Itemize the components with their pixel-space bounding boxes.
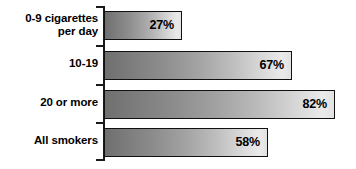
bar-value-label-0: 27%	[150, 19, 181, 32]
bar-2: 82%	[104, 90, 335, 119]
bar-chart: 0-9 cigarettes per day 27% 10-19 67% 20 …	[0, 0, 356, 169]
category-label-2: 20 or more	[0, 96, 98, 109]
axis-tick-2	[96, 84, 104, 86]
bar-value-label-1: 67%	[260, 59, 291, 72]
axis-tick-4	[96, 159, 104, 161]
axis-tick-1	[96, 45, 104, 47]
axis-tick-0	[96, 6, 104, 8]
bar-1: 67%	[104, 51, 292, 80]
bar-3: 58%	[104, 128, 268, 157]
category-label-1: 10-19	[0, 57, 98, 70]
bar-value-label-2: 82%	[303, 98, 334, 111]
axis-tick-3	[96, 122, 104, 124]
bar-0: 27%	[104, 11, 182, 40]
category-label-3: All smokers	[0, 134, 98, 147]
bar-value-label-3: 58%	[236, 136, 267, 149]
category-label-0: 0-9 cigarettes per day	[0, 12, 98, 37]
